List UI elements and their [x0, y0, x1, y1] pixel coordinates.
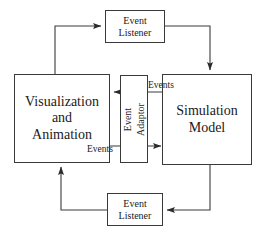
node-event-adaptor: Event Adaptor: [120, 75, 148, 163]
node-event-listener-bottom-label: Event Listener: [119, 198, 152, 222]
edge-label-events-to-simulation: Events: [87, 144, 113, 154]
node-event-listener-bottom: Event Listener: [107, 193, 163, 226]
connector-listener-bottom-to-visualization: [61, 167, 107, 210]
node-simulation-label: Simulation Model: [176, 103, 237, 136]
architecture-diagram: Visualization and Animation Simulation M…: [0, 0, 267, 235]
node-simulation-model: Simulation Model: [162, 74, 252, 165]
node-event-listener-top: Event Listener: [105, 10, 165, 43]
connector-simulation-to-listener-bottom: [167, 165, 210, 210]
edge-label-events-to-visualization: Events: [148, 80, 174, 90]
node-visualization-label: Visualization and Animation: [25, 94, 99, 144]
connector-listener-top-to-simulation: [165, 26, 210, 70]
node-event-adaptor-label: Event Adaptor: [122, 103, 147, 136]
node-event-listener-top-label: Event Listener: [119, 15, 152, 39]
connector-visualization-to-listener-top: [55, 26, 101, 74]
